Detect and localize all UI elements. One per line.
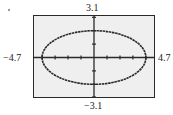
ymin-label: −3.1 [84, 101, 102, 111]
ellipse-plot [0, 0, 173, 115]
xmin-label: −4.7 [3, 53, 21, 63]
xmax-label: 4.7 [158, 53, 171, 63]
ymax-label: 3.1 [86, 3, 99, 13]
